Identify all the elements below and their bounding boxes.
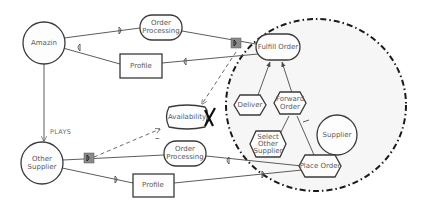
resource-order-processing-bottom[interactable]: Order Processing: [164, 141, 206, 166]
softgoal-availability[interactable]: Availability: [167, 105, 208, 129]
actor-other-supplier[interactable]: Other Supplier: [21, 142, 63, 184]
svg-text:Profile: Profile: [130, 62, 152, 70]
svg-text:Forward: Forward: [276, 95, 304, 103]
actor-label-line1: Other: [32, 155, 52, 163]
goal-fulfill-order[interactable]: Fulfill Order: [256, 34, 300, 60]
svg-text:Supplier: Supplier: [254, 147, 283, 155]
edge-orderproc-fulfill: [182, 31, 256, 44]
svg-text:Profile: Profile: [142, 181, 164, 189]
actor-supplier[interactable]: Supplier: [317, 115, 357, 155]
edge-amazin-orderproc: [64, 28, 140, 38]
dependency-d-icon: [78, 44, 80, 51]
resource-profile-top[interactable]: Profile: [120, 54, 162, 78]
minus-annotation: –: [155, 133, 160, 143]
task-select-other-supplier[interactable]: Select Other Supplier: [250, 131, 286, 157]
plays-label: PLAYS: [50, 128, 71, 136]
edge-othersup-profile: [62, 168, 133, 183]
actor-label-line2: Supplier: [28, 163, 57, 171]
svg-text:Availability: Availability: [168, 113, 206, 121]
actor-amazin[interactable]: Amazin: [23, 22, 65, 64]
svg-text:Deliver: Deliver: [238, 101, 263, 109]
edge-dashed-othersup-availability: [94, 129, 160, 157]
svg-text:Place Order: Place Order: [300, 162, 341, 170]
svg-text:Fulfill Order: Fulfill Order: [258, 43, 299, 51]
svg-text:Order: Order: [175, 145, 195, 153]
svg-text:Order: Order: [151, 19, 171, 27]
svg-text:Supplier: Supplier: [323, 131, 352, 139]
edge-othersup-orderproc: [63, 155, 164, 160]
highlighted-dependency-marker[interactable]: [84, 153, 94, 163]
diagram-canvas: Amazin Other Supplier PLAYS Supplier Ord…: [0, 0, 424, 209]
resource-profile-bottom[interactable]: Profile: [133, 174, 174, 197]
dependency-d-icon: [227, 157, 229, 164]
svg-text:Order: Order: [280, 103, 300, 111]
dependency-d-icon: [184, 58, 186, 65]
resource-order-processing-top[interactable]: Order Processing: [140, 15, 182, 40]
task-forward-order[interactable]: Forward Order: [274, 92, 306, 114]
highlighted-dependency-marker[interactable]: [231, 38, 241, 48]
task-deliver[interactable]: Deliver: [234, 95, 266, 115]
task-place-order[interactable]: Place Order: [299, 155, 341, 177]
svg-text:Processing: Processing: [142, 27, 179, 35]
svg-text:Amazin: Amazin: [31, 39, 57, 47]
svg-text:Processing: Processing: [166, 153, 203, 161]
edge-amazin-profile: [63, 48, 120, 64]
